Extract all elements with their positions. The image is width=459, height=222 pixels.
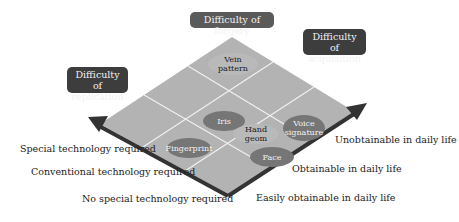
replication-line-1: Difficulty of [71, 69, 124, 91]
label-obtainable: Obtainable in daily life [292, 163, 402, 174]
acquisition-line-2: acquisition [307, 53, 362, 64]
label-no-special-technology: No special technology required [82, 193, 233, 204]
ellipse-voice-signature: Voice signature [283, 115, 325, 141]
replication-line-2: replication [71, 91, 124, 102]
tag-difficulty-of-acquisition: Difficulty of acquisition [303, 29, 366, 55]
acquisition-line-1: Difficulty of [307, 31, 362, 53]
tag-difficulty-of-forgery: Difficulty of forgery [190, 12, 274, 28]
voice-line-1: Voice [285, 119, 324, 128]
ellipse-fingerprint: Fingerprint [167, 138, 211, 158]
biometric-difficulty-diagram: Difficulty of forgery Difficulty of acqu… [0, 0, 459, 222]
ellipse-vein-pattern: Vein pattern [208, 53, 258, 75]
ellipse-face: Face [250, 147, 294, 167]
label-special-technology: Special technology required [20, 143, 156, 154]
label-unobtainable: Unobtainable in daily life [335, 134, 457, 145]
label-easily-obtainable: Easily obtainable in daily life [256, 192, 395, 203]
label-conventional-technology: Conventional technology required [31, 166, 195, 177]
ellipse-hand-geometry: Hand geom [233, 124, 279, 144]
voice-line-2: signature [285, 128, 324, 137]
tag-difficulty-of-replication: Difficulty of replication [67, 67, 128, 93]
